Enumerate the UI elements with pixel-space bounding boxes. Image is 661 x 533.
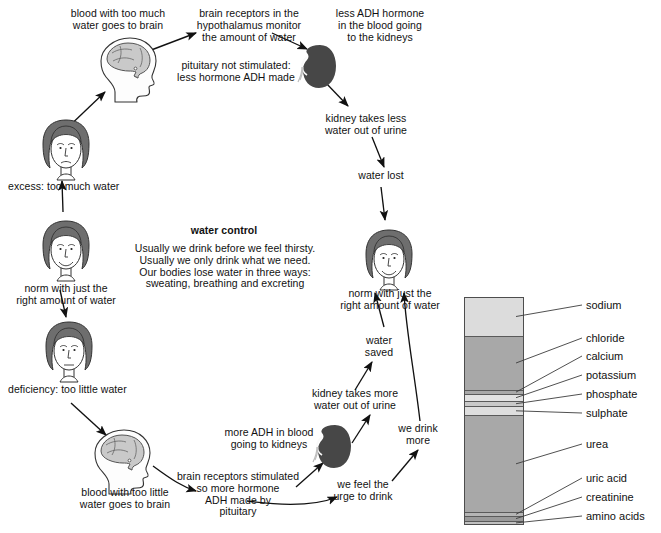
chart-label-creatinine: creatinine	[586, 491, 634, 503]
chart-leader-uric-acid	[516, 478, 582, 514]
chart-label-urea: urea	[586, 438, 608, 450]
chart-label-chloride: chloride	[586, 332, 625, 344]
chart-label-sodium: sodium	[586, 299, 621, 311]
chart-leader-sodium	[516, 305, 582, 317]
chart-label-amino-acids: amino acids	[586, 510, 645, 522]
chart-label-phosphate: phosphate	[586, 388, 637, 400]
diagram-canvas: blood with too much water goes to brain …	[0, 0, 661, 533]
chart-label-uric-acid: uric acid	[586, 472, 627, 484]
chart-leader-urea	[516, 444, 582, 464]
chart-leader-lines	[0, 0, 661, 533]
chart-label-calcium: calcium	[586, 350, 623, 362]
chart-leader-chloride	[516, 338, 582, 363]
chart-leader-creatinine	[516, 497, 582, 519]
chart-leader-phosphate	[516, 394, 582, 404]
chart-leader-sulphate	[516, 411, 582, 413]
chart-label-sulphate: sulphate	[586, 407, 628, 419]
chart-label-potassium: potassium	[586, 369, 636, 381]
chart-leader-amino-acids	[516, 516, 582, 523]
